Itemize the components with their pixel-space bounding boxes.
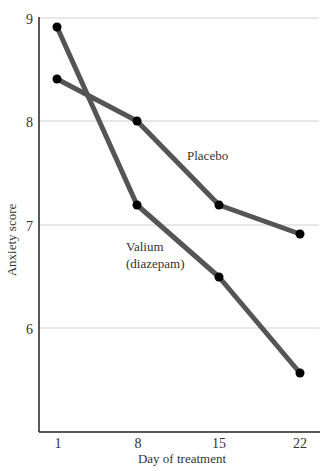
y-tick-labels: 9 8 7 6 [26, 12, 33, 337]
valium-point-day22 [296, 369, 305, 378]
placebo-point-day15 [215, 201, 224, 210]
valium-line [57, 27, 300, 373]
y-tick-8: 8 [26, 115, 33, 130]
x-tick-22: 22 [293, 436, 307, 451]
y-tick-9: 9 [26, 12, 33, 27]
placebo-point-day8 [133, 117, 142, 126]
placebo-point-day22 [296, 230, 305, 239]
y-tick-6: 6 [26, 322, 33, 337]
series-valium [53, 23, 305, 378]
valium-point-day1 [53, 23, 62, 32]
placebo-point-day1 [53, 75, 62, 84]
x-tick-labels: 1 8 15 22 [55, 436, 308, 451]
valium-point-day15 [215, 273, 224, 282]
x-tick-15: 15 [212, 436, 226, 451]
x-tick-1: 1 [55, 436, 62, 451]
x-tick-8: 8 [135, 436, 142, 451]
valium-label-line1: Valium [126, 239, 164, 254]
y-axis-label: Anxiety score [4, 203, 19, 276]
valium-point-day8 [133, 201, 142, 210]
x-axis-label: Day of treatment [138, 451, 226, 466]
valium-label-line2: (diazepam) [126, 256, 184, 271]
gridlines [39, 18, 319, 328]
line-chart: 9 8 7 6 1 8 15 22 Day of treatment Anxie… [0, 0, 329, 471]
placebo-label: Placebo [187, 148, 228, 163]
y-tick-7: 7 [26, 219, 33, 234]
